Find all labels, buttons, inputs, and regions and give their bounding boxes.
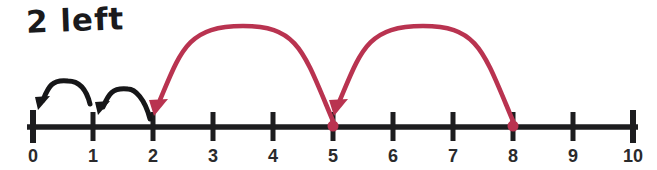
hop-arc [103,89,150,119]
tick-label: 0 [28,146,38,166]
tick-label: 1 [88,146,98,166]
hop-arrowhead [95,101,110,115]
tick-label: 4 [268,146,278,166]
jump-arc [340,26,513,121]
jump-point-dot [508,121,519,132]
tick-label: 6 [388,146,398,166]
number-line-figure: 2 left 012345678910 [0,0,657,170]
tick-label: 5 [328,146,338,166]
tick-label: 8 [508,146,518,166]
hop-arc [43,81,90,104]
jump-point-dot [328,121,339,132]
tick-label: 10 [623,146,643,166]
tick-label: 3 [208,146,218,166]
tick-label: 2 [148,146,158,166]
hop-arrowhead [35,96,50,110]
number-line-svg: 012345678910 [0,0,657,170]
tick-label: 7 [448,146,458,166]
jump-arc [160,26,333,121]
tick-label: 9 [568,146,578,166]
